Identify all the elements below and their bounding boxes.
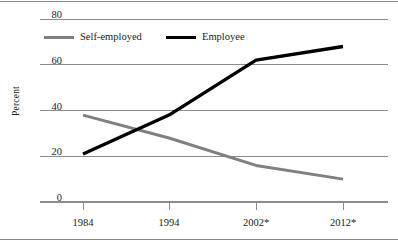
x-tick-label-1994: 1994 (139, 218, 199, 229)
y-tick-label-80: 80 (20, 10, 62, 21)
x-tick-label-2002: 2002* (226, 218, 286, 229)
legend-entry-employee: Employee (166, 32, 245, 43)
x-tick-label-2012: 2012* (313, 218, 373, 229)
y-tick-label-20: 20 (20, 147, 62, 158)
legend-entry-self-employed: Self-employed (44, 32, 142, 43)
y-axis-title: Percent (11, 71, 21, 131)
y-tick-label-40: 40 (20, 102, 62, 113)
x-tick-label-1984: 1984 (53, 218, 113, 229)
series-line-self-employed (83, 115, 343, 179)
y-tick-label-0: 0 (20, 193, 62, 204)
plot-area: 80 60 40 20 0 Percent 1984 1994 2002* 20… (0, 0, 398, 245)
legend-swatch-employee (166, 36, 196, 39)
legend-label-employee: Employee (202, 32, 245, 43)
x-axis-tickmarks (83, 202, 343, 210)
legend-label-self-employed: Self-employed (80, 32, 142, 43)
chart-figure: 80 60 40 20 0 Percent 1984 1994 2002* 20… (0, 0, 398, 245)
chart-legend: Self-employed Employee (44, 32, 294, 50)
series-lines (83, 46, 343, 179)
y-tick-label-60: 60 (20, 56, 62, 67)
series-line-employee (83, 46, 343, 154)
legend-swatch-self-employed (44, 36, 74, 39)
